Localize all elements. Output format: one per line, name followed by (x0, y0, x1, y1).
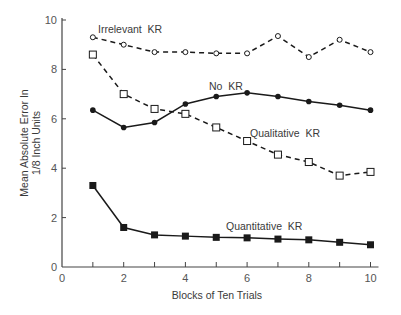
x-tick-label: 2 (121, 272, 127, 284)
x-tick-label: 6 (244, 272, 250, 284)
line-chart: 02468100246810 Irrelevant KRNo KRQualita… (0, 0, 401, 315)
open-square-marker (151, 105, 158, 112)
y-tick-label: 6 (51, 113, 57, 125)
x-tick-label: 4 (182, 272, 188, 284)
series-line-irrelevant-kr (93, 36, 371, 57)
filled-square-marker (305, 236, 312, 243)
open-square-marker (305, 159, 312, 166)
open-square-marker (182, 110, 189, 117)
filled-square-marker (367, 241, 374, 248)
y-tick-label: 10 (45, 14, 57, 26)
x-axis-title: Blocks of Ten Trials (172, 289, 262, 301)
filled-square-marker (336, 239, 343, 246)
series-irrelevant-kr (90, 34, 373, 60)
open-circle-marker (368, 50, 373, 55)
filled-square-marker (120, 224, 127, 231)
open-square-marker (274, 151, 281, 158)
filled-circle-marker (213, 94, 219, 100)
open-circle-marker (121, 42, 126, 47)
y-axis-title-line1: Mean Absolute Error In (18, 89, 30, 197)
open-circle-marker (152, 50, 157, 55)
open-circle-marker (214, 51, 219, 56)
filled-square-marker (151, 231, 158, 238)
series-label-no-kr: No KR (209, 80, 243, 92)
filled-circle-marker (337, 102, 343, 108)
filled-square-marker (213, 234, 220, 241)
filled-square-marker (274, 236, 281, 243)
open-square-marker (367, 168, 374, 175)
y-tick-label: 4 (51, 162, 57, 174)
series-quantitative-kr (89, 182, 374, 248)
x-tick-label: 8 (306, 272, 312, 284)
y-axis-title-line2: 1/8 Inch Units (30, 111, 42, 175)
x-tick-label: 10 (364, 272, 376, 284)
y-tick-label: 2 (51, 212, 57, 224)
open-square-marker (120, 91, 127, 98)
filled-circle-marker (306, 99, 312, 105)
filled-square-marker (89, 182, 96, 189)
filled-square-marker (244, 234, 251, 241)
open-circle-marker (337, 37, 342, 42)
series-group (89, 34, 374, 249)
open-circle-marker (90, 35, 95, 40)
filled-circle-marker (183, 101, 189, 107)
open-circle-marker (183, 50, 188, 55)
y-tick-label: 8 (51, 63, 57, 75)
series-labels: Irrelevant KRNo KRQualitative KRQuantita… (98, 23, 320, 232)
filled-circle-marker (368, 107, 374, 113)
filled-circle-marker (121, 125, 127, 131)
open-square-marker (89, 51, 96, 58)
y-tick-label: 0 (51, 261, 57, 273)
x-tick-label: 0 (59, 272, 65, 284)
series-label-irrelevant-kr: Irrelevant KR (98, 23, 163, 35)
filled-circle-marker (275, 94, 281, 100)
series-label-qualitative-kr: Qualitative KR (250, 127, 320, 139)
filled-circle-marker (152, 120, 158, 126)
series-label-quantitative-kr: Quantitative KR (226, 220, 303, 232)
series-line-no-kr (93, 93, 371, 128)
series-line-qualitative-kr (93, 55, 371, 176)
filled-circle-marker (244, 90, 250, 96)
open-circle-marker (245, 51, 250, 56)
filled-square-marker (182, 233, 189, 240)
series-line-quantitative-kr (93, 185, 371, 244)
open-square-marker (336, 172, 343, 179)
open-circle-marker (275, 34, 280, 39)
open-square-marker (213, 124, 220, 131)
series-no-kr (90, 90, 373, 130)
series-qualitative-kr (89, 51, 374, 179)
open-circle-marker (306, 55, 311, 60)
filled-circle-marker (90, 107, 96, 113)
